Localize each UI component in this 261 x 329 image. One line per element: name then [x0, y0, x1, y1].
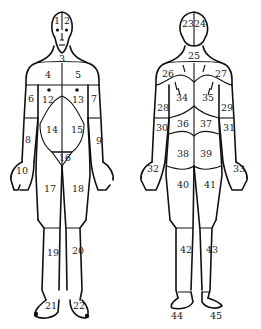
front-figure: 1 2 3 4 5 6 7 8 9 10 12 13 14 15 16 17 1…: [11, 12, 113, 318]
region-label-41: 41: [204, 179, 216, 190]
region-label-7: 7: [91, 93, 97, 104]
front-eye-right: [65, 28, 68, 31]
region-label-14: 14: [46, 124, 58, 135]
region-label-33: 33: [233, 163, 245, 174]
region-label-31: 31: [223, 122, 235, 133]
front-nipple-left: [47, 88, 51, 92]
back-foot-left: [171, 292, 193, 309]
region-label-24: 24: [194, 18, 206, 29]
front-toe-left: [34, 312, 38, 316]
region-label-32: 32: [147, 163, 159, 174]
region-label-12: 12: [42, 94, 54, 105]
region-label-35: 35: [202, 92, 214, 103]
region-label-5: 5: [75, 69, 81, 80]
region-label-39: 39: [200, 148, 212, 159]
front-torso-left: [36, 85, 38, 220]
front-hand-right: [91, 162, 113, 190]
region-label-27: 27: [215, 68, 227, 79]
region-label-45: 45: [210, 310, 222, 321]
region-label-19: 19: [47, 247, 59, 258]
region-label-22: 22: [73, 300, 85, 311]
region-label-43: 43: [206, 244, 218, 255]
region-label-3: 3: [59, 53, 65, 64]
region-label-6: 6: [28, 93, 34, 104]
region-label-34: 34: [176, 92, 188, 103]
back-collar-line: [166, 62, 222, 64]
region-label-25: 25: [188, 50, 200, 61]
region-label-4: 4: [45, 69, 51, 80]
region-label-15: 15: [71, 124, 83, 135]
region-label-18: 18: [72, 183, 84, 194]
front-nose: [60, 33, 64, 40]
back-foot-right: [202, 292, 222, 308]
body-region-diagram: 1 2 3 4 5 6 7 8 9 10 12 13 14 15 16 17 1…: [0, 0, 261, 329]
front-toe-right: [85, 314, 89, 318]
region-label-30: 30: [156, 122, 168, 133]
region-label-28: 28: [157, 102, 169, 113]
region-label-23: 23: [182, 18, 194, 29]
back-figure: 23 24 25 26 27 28 29 30 31 32 33 34 35 3…: [141, 12, 247, 321]
region-label-26: 26: [162, 68, 174, 79]
region-label-20: 20: [72, 245, 84, 256]
region-label-2: 2: [64, 15, 70, 26]
region-label-36: 36: [177, 118, 189, 129]
region-label-44: 44: [171, 310, 183, 321]
front-nipple-right: [75, 88, 79, 92]
region-label-21: 21: [45, 300, 57, 311]
region-label-10: 10: [16, 165, 28, 176]
region-label-42: 42: [180, 244, 192, 255]
region-label-1: 1: [54, 15, 60, 26]
region-label-40: 40: [177, 179, 189, 190]
region-label-29: 29: [221, 102, 233, 113]
region-label-16: 16: [59, 152, 71, 163]
region-label-17: 17: [44, 183, 56, 194]
region-label-38: 38: [177, 148, 189, 159]
front-torso-right: [86, 85, 90, 220]
region-label-37: 37: [200, 118, 212, 129]
region-label-8: 8: [25, 134, 31, 145]
front-eye-left: [56, 28, 59, 31]
region-label-9: 9: [96, 135, 102, 146]
region-label-13: 13: [72, 94, 84, 105]
